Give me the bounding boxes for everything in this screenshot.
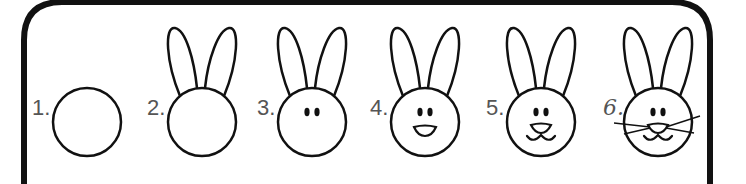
step-6-figure [614,28,700,156]
right-eye-icon [427,108,432,116]
head-circle [168,88,236,156]
step-2-figure [168,28,236,156]
head-circle [391,88,459,156]
step-6-number-label: 6. [603,97,624,119]
left-ear-icon [168,28,197,96]
step-5-number-label: 5. [486,97,504,119]
right-ear-icon [428,28,459,96]
head-circle [53,88,121,156]
bunny-steps-diagram: 1.2.3.4.5.6. [0,0,746,184]
head-circle [507,88,575,156]
step-3-figure [278,28,346,156]
right-ear-icon [315,28,346,96]
head-circle [278,88,346,156]
right-ear-icon [544,28,575,96]
rounded-frame-border [24,2,710,184]
left-ear-icon [624,28,653,96]
right-eye-icon [314,108,319,116]
step-1-figure [53,88,121,156]
right-ear-icon [205,28,236,96]
step-4-number-label: 4. [370,97,388,119]
left-eye-icon [650,108,655,116]
left-ear-icon [391,28,420,96]
left-ear-icon [507,28,536,96]
right-eye-icon [660,108,665,116]
step-2-number-label: 2. [147,97,165,119]
step-4-figure [391,28,459,156]
left-eye-icon [304,108,309,116]
diagram-canvas [0,0,746,184]
left-ear-icon [278,28,307,96]
right-eye-icon [543,108,548,116]
right-ear-icon [661,28,692,96]
step-3-number-label: 3. [257,97,275,119]
step-1-number-label: 1. [32,97,50,119]
left-eye-icon [417,108,422,116]
step-5-figure [507,28,575,156]
left-eye-icon [533,108,538,116]
